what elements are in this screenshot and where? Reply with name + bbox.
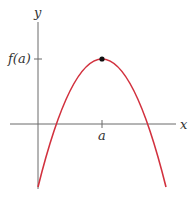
- x-tick-label: a: [98, 128, 106, 143]
- maximum-point: [99, 56, 104, 61]
- y-axis-label: y: [33, 5, 42, 20]
- x-axis-label: x: [180, 117, 188, 132]
- y-tick-label: f(a): [7, 51, 31, 66]
- function-graph: y x f(a) a: [0, 0, 196, 201]
